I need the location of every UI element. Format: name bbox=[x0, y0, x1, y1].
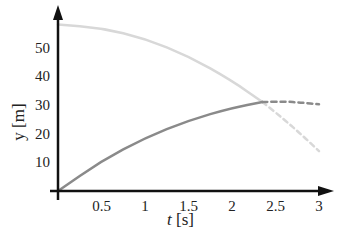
x-tick-label: 2.5 bbox=[266, 198, 285, 214]
y-tick-label: 40 bbox=[35, 68, 50, 84]
y-tick-label: 10 bbox=[35, 154, 50, 170]
x-axis-arrow-icon bbox=[318, 186, 334, 196]
plot-curves bbox=[58, 25, 319, 191]
y-tick-label: 50 bbox=[35, 40, 50, 56]
y-axis-arrow-icon bbox=[53, 5, 63, 20]
x-axis-label: t [s] bbox=[167, 210, 194, 229]
y-axis-label: y [m] bbox=[9, 103, 28, 140]
x-tick-label: 2 bbox=[228, 198, 236, 214]
y-tick-labels: 1020304050 bbox=[35, 40, 50, 171]
y-tick-label: 20 bbox=[35, 126, 50, 142]
dashed-curve bbox=[262, 102, 319, 151]
solid-curve bbox=[58, 25, 262, 102]
dashed-curve bbox=[262, 102, 319, 105]
x-tick-labels: 0.511.522.53 bbox=[92, 198, 323, 214]
x-tick-label: 0.5 bbox=[92, 198, 111, 214]
x-tick-label: 1 bbox=[141, 198, 149, 214]
x-tick-label: 3 bbox=[315, 198, 323, 214]
solid-curve bbox=[58, 102, 262, 191]
trajectory-chart: 0.511.522.53 1020304050 t [s] y [m] bbox=[0, 0, 344, 244]
y-tick-label: 30 bbox=[35, 97, 50, 113]
